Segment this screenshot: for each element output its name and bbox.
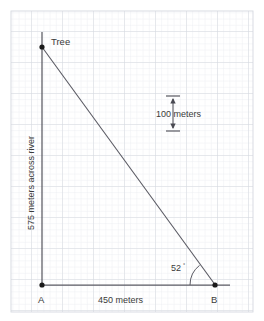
diagram-figure: Tree A B 450 meters 575 meters across ri… [0, 0, 264, 321]
label-scale-bar: 100 meters [156, 109, 202, 119]
triangle-diagram-svg: Tree A B 450 meters 575 meters across ri… [0, 0, 264, 321]
vertex-dot-tree [39, 44, 44, 49]
degree-symbol-icon: ° [183, 262, 185, 268]
label-vertex-a: A [38, 294, 45, 305]
label-base-length: 450 meters [98, 295, 144, 305]
label-vertical-length: 575 meters across river [26, 136, 36, 230]
vertex-dot-a [39, 282, 44, 287]
label-angle-b-value: 52 [171, 263, 181, 273]
label-vertex-b: B [211, 294, 217, 305]
vertex-dot-b [212, 282, 217, 287]
grid-paper [11, 11, 253, 312]
label-tree: Tree [51, 36, 70, 47]
